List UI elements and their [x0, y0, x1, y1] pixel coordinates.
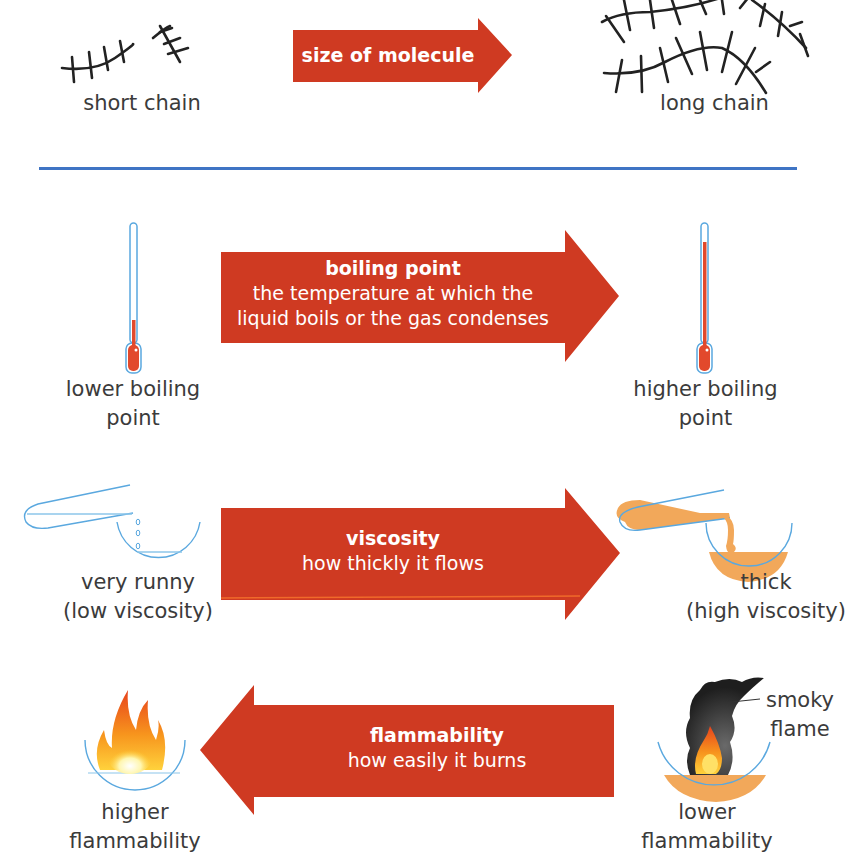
flammability-title: flammability: [260, 723, 614, 748]
lower-boiling-point-line-1: lower boiling: [53, 375, 213, 404]
lower-flammability-label: lower flammability: [632, 798, 782, 856]
higher-flammability-line-1: higher: [60, 798, 210, 827]
lower-flammability-line-2: flammability: [632, 827, 782, 856]
runny-liquid-icon: [25, 485, 201, 558]
viscosity-description: how thickly it flows: [221, 551, 565, 576]
short-chain-icon: [62, 26, 188, 82]
section-divider: [39, 167, 797, 170]
high-viscosity-line-2: (high viscosity): [684, 597, 848, 626]
high-viscosity-label: thick (high viscosity): [684, 568, 848, 626]
long-chain-label: long chain: [652, 89, 777, 118]
higher-boiling-point-line-2: point: [623, 404, 788, 433]
boiling-point-description-line-2: liquid boils or the gas condenses: [221, 306, 565, 331]
boiling-point-title: boiling point: [221, 256, 565, 281]
long-chain-icon: [602, 0, 808, 93]
flammability-arrow-text: flammability how easily it burns: [260, 723, 614, 773]
lower-flammability-line-1: lower: [632, 798, 782, 827]
higher-flammability-label: higher flammability: [60, 798, 210, 856]
large-flame-icon: [85, 690, 185, 790]
lower-boiling-point-line-2: point: [53, 404, 213, 433]
viscosity-title: viscosity: [221, 526, 565, 551]
smoky-flame-line-2: flame: [760, 715, 840, 744]
higher-boiling-point-label: higher boiling point: [623, 375, 788, 433]
lower-boiling-point-label: lower boiling point: [53, 375, 213, 433]
low-viscosity-label: very runny (low viscosity): [58, 568, 218, 626]
smoky-flame-annotation: smoky flame: [760, 686, 840, 744]
size-arrow-label: size of molecule: [293, 43, 483, 68]
boiling-point-description-line-1: the temperature at which the: [221, 281, 565, 306]
higher-flammability-line-2: flammability: [60, 827, 210, 856]
viscosity-arrow-text: viscosity how thickly it flows: [221, 526, 565, 576]
boiling-point-arrow-text: boiling point the temperature at which t…: [221, 256, 565, 331]
short-chain-label: short chain: [82, 89, 202, 118]
high-viscosity-line-1: thick: [684, 568, 848, 597]
smoky-flame-icon: [658, 678, 770, 803]
low-viscosity-line-1: very runny: [58, 568, 218, 597]
smoky-flame-line-1: smoky: [760, 686, 840, 715]
low-viscosity-line-2: (low viscosity): [58, 597, 218, 626]
thermometer-high-icon: [697, 223, 712, 373]
flammability-description: how easily it burns: [260, 748, 614, 773]
thermometer-low-icon: [126, 223, 141, 373]
higher-boiling-point-line-1: higher boiling: [623, 375, 788, 404]
